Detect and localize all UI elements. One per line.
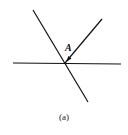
- point-label-a: A: [64, 42, 72, 53]
- diagram-figure: A (a): [0, 0, 128, 135]
- long-diagonal-line: [33, 10, 88, 102]
- figure-caption: (a): [59, 112, 69, 122]
- horizontal-surface-line: [13, 63, 121, 64]
- incident-ray-line: [65, 19, 102, 63]
